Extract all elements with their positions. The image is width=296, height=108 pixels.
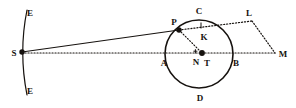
point-dot-p	[176, 27, 181, 32]
label-n: N	[193, 58, 200, 67]
line-s-to-p	[22, 30, 179, 52]
label-d: D	[197, 94, 204, 103]
main-circle-acbd	[165, 20, 233, 88]
point-dot-t	[199, 50, 205, 56]
label-a: A	[161, 59, 168, 68]
label-s: S	[11, 49, 16, 58]
label-m: M	[279, 50, 288, 59]
geometric-figure: E E S A B C D P K N T L M	[0, 0, 296, 108]
label-l: L	[246, 9, 252, 18]
label-p: P	[171, 18, 177, 27]
line-p-to-l	[179, 21, 252, 30]
line-p-to-t	[179, 30, 202, 53]
label-b: B	[233, 59, 239, 68]
label-t: T	[204, 59, 210, 68]
label-k: K	[200, 33, 207, 42]
label-c: C	[196, 7, 203, 16]
line-l-to-m	[252, 21, 275, 53]
point-dot-s	[19, 49, 24, 54]
label-e-bottom: E	[27, 87, 33, 96]
label-e-top: E	[27, 9, 33, 18]
